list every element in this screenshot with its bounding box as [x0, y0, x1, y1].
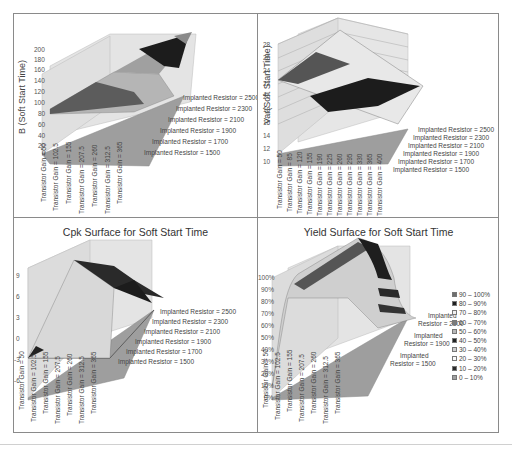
svg-text:Implanted: Implanted: [400, 352, 429, 360]
svg-text:Implanted Resistor = 2300: Implanted Resistor = 2300: [152, 318, 228, 326]
svg-text:Transistor Gain = 207.5: Transistor Gain = 207.5: [298, 354, 305, 422]
svg-text:Transistor Gain = 400: Transistor Gain = 400: [376, 153, 383, 216]
legend-item: 0 – 10%: [452, 373, 490, 382]
svg-text:Transistor Gain = 225: Transistor Gain = 225: [326, 153, 333, 216]
svg-text:Transistor Gain = 50: Transistor Gain = 50: [40, 143, 47, 202]
chart-b-soft-start: B (Soft Start Time) 200 180 160 140 120 …: [14, 14, 257, 217]
svg-text:Implanted Resistor = 1500: Implanted Resistor = 1500: [118, 358, 194, 366]
svg-text:Transistor Gain = 260: Transistor Gain = 260: [91, 144, 98, 207]
svg-text:6: 6: [16, 293, 20, 300]
legend-swatch-icon: [452, 366, 457, 371]
svg-text:Transistor Gain = 260: Transistor Gain = 260: [66, 353, 73, 416]
svg-text:120: 120: [34, 88, 45, 95]
svg-text:Implanted Resistor = 2300: Implanted Resistor = 2300: [413, 134, 489, 142]
svg-text:100: 100: [34, 99, 45, 106]
legend-swatch-icon: [452, 356, 457, 361]
svg-text:22: 22: [263, 80, 271, 87]
svg-text:Implanted Resistor = 1900: Implanted Resistor = 1900: [160, 127, 236, 135]
svg-text:60: 60: [38, 121, 46, 128]
svg-text:Implanted Resistor = 1900: Implanted Resistor = 1900: [403, 150, 479, 158]
svg-text:160: 160: [34, 66, 45, 73]
svg-text:0: 0: [16, 335, 20, 342]
svg-text:60%: 60%: [261, 322, 274, 329]
chart-cpk-surface: Cpk Surface for Soft Start Time 9 6 3 0 …: [14, 218, 257, 433]
svg-text:50%: 50%: [261, 334, 274, 341]
legend-swatch-icon: [452, 320, 457, 325]
svg-text:70%: 70%: [261, 310, 274, 317]
svg-text:Implanted Resistor = 2500: Implanted Resistor = 2500: [183, 94, 257, 102]
svg-text:12: 12: [263, 145, 271, 152]
legend-item: 60 – 70%: [452, 318, 490, 327]
svg-text:20: 20: [263, 93, 271, 100]
gain-labels: Transistor Gain = 50 Transistor Gain = 1…: [40, 141, 123, 214]
svg-text:Transistor Gain = 102.5: Transistor Gain = 102.5: [52, 143, 59, 211]
legend-item: 10 – 20%: [452, 364, 490, 373]
svg-text:Implanted Resistor = 1700: Implanted Resistor = 1700: [398, 158, 474, 166]
svg-text:3: 3: [16, 314, 20, 321]
legend-item: 70 – 80%: [452, 308, 490, 317]
svg-text:Transistor Gain = 312.5: Transistor Gain = 312.5: [104, 146, 111, 214]
svg-text:140: 140: [34, 77, 45, 84]
svg-text:24: 24: [263, 67, 271, 74]
legend-item: 20 – 30%: [452, 354, 490, 363]
svg-text:Implanted Resistor = 2500: Implanted Resistor = 2500: [418, 126, 494, 134]
legend-swatch-icon: [452, 310, 457, 315]
svg-text:28: 28: [263, 41, 271, 48]
svg-text:Transistor Gain = 102.5: Transistor Gain = 102.5: [30, 354, 37, 422]
legend-swatch-icon: [452, 338, 457, 343]
svg-text:200: 200: [34, 46, 45, 53]
svg-text:Transistor Gain = 190: Transistor Gain = 190: [316, 153, 323, 216]
svg-text:Transistor Gain = 50: Transistor Gain = 50: [262, 349, 269, 408]
legend-item: 80 – 90%: [452, 299, 490, 308]
svg-text:80%: 80%: [261, 298, 274, 305]
svg-text:Transistor Gain = 260: Transistor Gain = 260: [336, 153, 343, 216]
svg-text:14: 14: [263, 132, 271, 139]
svg-text:Transistor Gain = 102.5: Transistor Gain = 102.5: [274, 352, 281, 420]
svg-text:Resistor = 1500: Resistor = 1500: [390, 360, 436, 367]
chart-var-soft-start: Var(Soft Start Time) 28 26 24 22 20 18 1…: [258, 14, 499, 217]
svg-text:Transistor Gain = 330: Transistor Gain = 330: [356, 153, 363, 216]
svg-text:Implanted Resistor = 1500: Implanted Resistor = 1500: [393, 166, 469, 174]
svg-text:10: 10: [263, 158, 271, 165]
svg-text:Transistor Gain = 155: Transistor Gain = 155: [286, 349, 293, 412]
svg-text:Transistor Gain = 120: Transistor Gain = 120: [296, 151, 303, 214]
svg-text:Transistor Gain = 155: Transistor Gain = 155: [306, 152, 313, 215]
svg-text:Transistor Gain = 50: Transistor Gain = 50: [276, 150, 283, 209]
svg-text:Transistor Gain = 207.5: Transistor Gain = 207.5: [54, 356, 61, 424]
svg-text:Implanted Resistor = 2300: Implanted Resistor = 2300: [176, 105, 252, 113]
svg-text:100%: 100%: [258, 274, 275, 281]
svg-text:Implanted Resistor = 1500: Implanted Resistor = 1500: [144, 149, 220, 157]
svg-text:Transistor Gain = 295: Transistor Gain = 295: [346, 153, 353, 216]
svg-text:16: 16: [263, 119, 271, 126]
svg-text:Resistor = 1900: Resistor = 1900: [404, 340, 450, 347]
svg-text:Transistor Gain = 155: Transistor Gain = 155: [42, 351, 49, 414]
svg-text:Transistor Gain = 365: Transistor Gain = 365: [90, 351, 97, 414]
svg-text:Transistor Gain = 312.5: Transistor Gain = 312.5: [78, 356, 85, 424]
svg-text:Implanted Resistor = 2500: Implanted Resistor = 2500: [160, 308, 236, 316]
surface-plot: 9 6 3 0 -3 -6 Implanted Resistor = 2500 …: [14, 218, 257, 433]
svg-text:9: 9: [16, 272, 20, 279]
legend-item: 90 – 100%: [452, 290, 490, 299]
svg-text:Implanted Resistor = 2100: Implanted Resistor = 2100: [168, 116, 244, 124]
yield-legend: 90 – 100% 80 – 90% 70 – 80% 60 – 70% 50 …: [452, 290, 490, 382]
svg-text:Transistor Gain = 365: Transistor Gain = 365: [366, 153, 373, 216]
svg-text:Implanted Resistor = 2100: Implanted Resistor = 2100: [144, 328, 220, 336]
svg-text:180: 180: [34, 56, 45, 63]
surface-plot: 28 26 24 22 20 18 16 14 12 10 Implanted …: [258, 14, 499, 217]
surface-plot: 200 180 160 140 120 100 80 60 40 20 0 Im…: [14, 14, 257, 217]
svg-text:Implanted Resistor = 2100: Implanted Resistor = 2100: [408, 142, 484, 150]
svg-text:80: 80: [38, 110, 46, 117]
svg-text:Implanted Resistor = 1700: Implanted Resistor = 1700: [152, 138, 228, 146]
svg-text:Implanted Resistor = 1900: Implanted Resistor = 1900: [135, 338, 211, 346]
svg-text:Transistor Gain = 365: Transistor Gain = 365: [334, 351, 341, 414]
svg-text:40: 40: [38, 132, 46, 139]
legend-swatch-icon: [452, 292, 457, 297]
svg-text:Transistor Gain = 207.5: Transistor Gain = 207.5: [78, 146, 85, 214]
legend-swatch-icon: [452, 301, 457, 306]
legend-item: 50 – 60%: [452, 327, 490, 336]
page-rule: [0, 444, 512, 445]
svg-text:Transistor Gain = 85: Transistor Gain = 85: [286, 153, 293, 212]
legend-swatch-icon: [452, 347, 457, 352]
svg-text:Transistor Gain = 155: Transistor Gain = 155: [65, 141, 72, 204]
svg-text:18: 18: [263, 106, 271, 113]
